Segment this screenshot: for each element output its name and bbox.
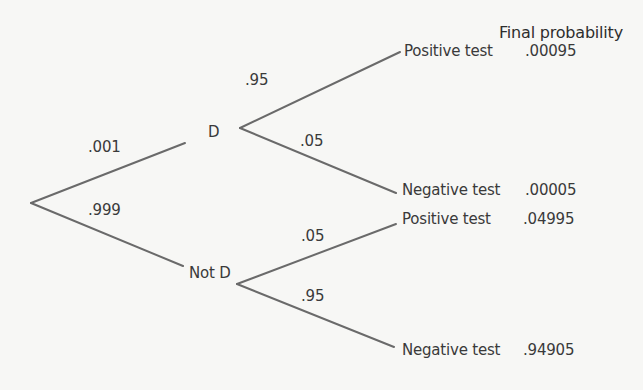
branch-probability-d-negative: .05 xyxy=(300,133,323,150)
probability-tree-diagram: Final probability .001 .999 D Not D .95 … xyxy=(0,0,643,390)
node-label-d: D xyxy=(208,124,219,141)
branch-d-to-positive xyxy=(240,52,400,128)
final-probability-d-negative: .00005 xyxy=(525,182,576,199)
branch-probability-not-d-positive: .05 xyxy=(301,228,324,245)
branch-probability-not-d: .999 xyxy=(88,202,121,219)
outcome-label-d-positive: Positive test xyxy=(404,43,493,60)
final-probability-header: Final probability xyxy=(499,24,623,41)
branch-probability-d-positive: .95 xyxy=(245,72,268,89)
node-label-not-d: Not D xyxy=(189,265,231,282)
outcome-label-d-negative: Negative test xyxy=(402,182,500,199)
branch-probability-not-d-negative: .95 xyxy=(301,288,324,305)
outcome-label-not-d-positive: Positive test xyxy=(402,211,491,228)
branch-probability-d: .001 xyxy=(88,139,121,156)
final-probability-not-d-positive: .04995 xyxy=(523,211,574,228)
final-probability-not-d-negative: .94905 xyxy=(523,342,574,359)
final-probability-d-positive: .00095 xyxy=(525,43,576,60)
outcome-label-not-d-negative: Negative test xyxy=(402,342,500,359)
